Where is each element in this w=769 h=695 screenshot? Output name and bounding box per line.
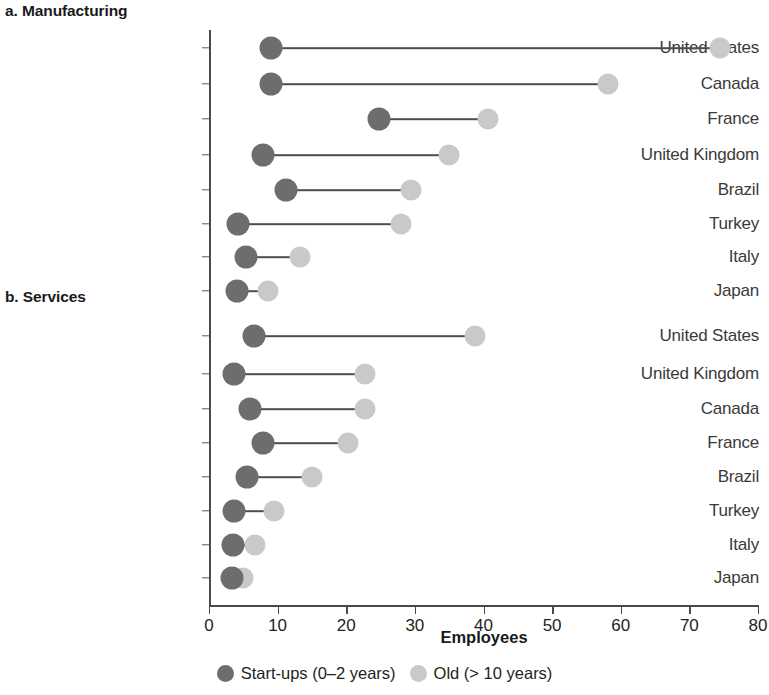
row-tick [202,408,209,409]
plot-area: 01020304050607080 [209,30,758,605]
row-tick [202,510,209,511]
row-tick [202,223,209,224]
old-firm-marker [301,467,322,488]
startup-marker [226,213,249,236]
old-firm-marker [598,74,619,95]
connector-line [271,47,720,49]
row-tick [202,290,209,291]
x-axis-title: Employees [209,628,759,647]
connector-line [379,118,489,120]
row-tick [202,83,209,84]
legend-item: Old (> 10 years) [410,664,553,683]
row-tick [202,442,209,443]
row-tick [202,544,209,545]
old-firm-marker [338,433,359,454]
old-firm-marker [391,214,412,235]
row-tick [202,373,209,374]
row-tick [202,577,209,578]
chart-legend: Start-ups (0–2 years)Old (> 10 years) [0,664,769,683]
connector-line [238,223,401,225]
old-firm-marker [401,180,422,201]
legend-item: Start-ups (0–2 years) [217,664,396,683]
row-tick [202,154,209,155]
startup-marker [235,466,258,489]
old-firm-marker [258,281,279,302]
x-tick [346,605,347,614]
startup-marker [222,363,245,386]
startup-marker [222,500,245,523]
x-tick [552,605,553,614]
x-tick [689,605,690,614]
x-tick [209,605,210,614]
startup-marker [251,432,274,455]
connector-line [254,335,475,337]
startup-marker [235,246,258,269]
old-firm-marker [478,109,499,130]
startup-marker [274,179,297,202]
connector-line [271,83,609,85]
startup-marker [367,108,390,131]
y-axis-line [209,30,211,605]
panel-a-title: a. Manufacturing [5,2,127,20]
row-tick [202,118,209,119]
connector-line [263,442,349,444]
x-tick [484,605,485,614]
row-tick [202,476,209,477]
old-firm-marker [355,399,376,420]
startup-marker [259,37,282,60]
row-tick [202,335,209,336]
panel-b-title: b. Services [5,288,86,306]
old-firm-marker [465,326,486,347]
startup-marker [226,280,249,303]
startup-marker [221,567,244,590]
old-firm-marker [290,247,311,268]
startup-marker [243,325,266,348]
row-tick [202,256,209,257]
x-tick [758,605,759,614]
old-firm-marker [439,145,460,166]
legend-label: Old (> 10 years) [434,664,553,683]
startup-marker [239,398,262,421]
old-firm-marker [354,364,375,385]
old-firm-marker [264,501,285,522]
legend-label: Start-ups (0–2 years) [241,664,396,683]
x-tick [278,605,279,614]
x-tick [621,605,622,614]
connector-line [286,189,412,191]
startup-marker [222,534,245,557]
connector-line [263,154,449,156]
row-tick [202,189,209,190]
connector-line [234,373,365,375]
circle-marker-icon [410,665,427,682]
old-firm-marker [244,535,265,556]
dumbbell-chart: a. Manufacturing b. Services United Stat… [0,0,769,695]
startup-marker [252,144,275,167]
row-tick [202,47,209,48]
x-tick [415,605,416,614]
old-firm-marker [710,38,731,59]
startup-marker [259,73,282,96]
connector-line [250,408,365,410]
circle-marker-icon [217,665,234,682]
